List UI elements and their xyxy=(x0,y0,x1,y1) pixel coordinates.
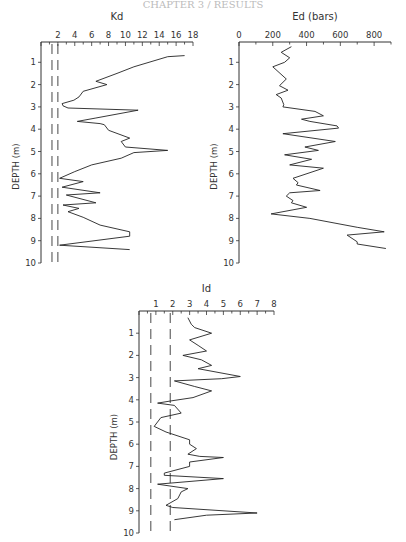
y-tick-label: 9 xyxy=(229,236,234,246)
kd-plot: Kd2468101214161812345678910DEPTH (m) xyxy=(11,11,198,268)
axis-title: Id xyxy=(202,283,211,294)
y-tick-label: 8 xyxy=(31,213,36,223)
x-tick-label: 6 xyxy=(89,30,94,40)
chart-canvas: CHAPTER 3 / RESULTS Kd246810121416181234… xyxy=(0,0,406,542)
y-tick-label: 4 xyxy=(31,124,36,134)
y-tick-label: 10 xyxy=(123,528,134,538)
y-tick-label: 5 xyxy=(129,417,134,427)
y-tick-label: 10 xyxy=(223,258,234,268)
x-tick-label: 8 xyxy=(271,299,276,309)
id-plot: Id1234567812345678910DEPTH (m) xyxy=(109,283,277,538)
y-tick-label: 6 xyxy=(31,169,36,179)
page-header: CHAPTER 3 / RESULTS xyxy=(143,0,264,10)
axis-title: Ed (bars) xyxy=(292,11,338,22)
x-tick-label: 4 xyxy=(204,299,209,309)
y-tick-label: 7 xyxy=(229,191,234,201)
x-tick-label: 8 xyxy=(106,30,111,40)
y-tick-label: 5 xyxy=(31,147,36,157)
y-axis-label: DEPTH (m) xyxy=(11,143,21,189)
ed-plot: Ed (bars)020040060080012345678910DEPTH (… xyxy=(209,11,391,268)
x-tick-label: 14 xyxy=(154,30,165,40)
x-tick-label: 16 xyxy=(171,30,182,40)
y-tick-label: 9 xyxy=(129,506,134,516)
y-tick-label: 4 xyxy=(229,124,234,134)
x-tick-label: 3 xyxy=(187,299,192,309)
y-axis-label: DEPTH (m) xyxy=(209,143,219,189)
x-tick-label: 1 xyxy=(153,299,158,309)
x-tick-label: 7 xyxy=(254,299,259,309)
x-tick-label: 600 xyxy=(332,30,348,40)
x-tick-label: 6 xyxy=(238,299,243,309)
y-tick-label: 2 xyxy=(129,350,134,360)
y-tick-label: 4 xyxy=(129,395,134,405)
x-tick-label: 5 xyxy=(221,299,226,309)
y-tick-label: 7 xyxy=(31,191,36,201)
x-tick-label: 400 xyxy=(298,30,314,40)
y-tick-label: 3 xyxy=(31,102,36,112)
y-tick-label: 6 xyxy=(129,439,134,449)
y-tick-label: 8 xyxy=(229,213,234,223)
y-tick-label: 2 xyxy=(229,80,234,90)
y-axis-label: DEPTH (m) xyxy=(109,414,119,460)
y-tick-label: 6 xyxy=(229,169,234,179)
y-tick-label: 3 xyxy=(229,102,234,112)
data-series-line xyxy=(154,318,257,520)
data-series-line xyxy=(271,47,386,249)
x-tick-label: 2 xyxy=(55,30,60,40)
y-tick-label: 10 xyxy=(25,258,36,268)
x-tick-label: 800 xyxy=(366,30,382,40)
x-tick-label: 10 xyxy=(120,30,131,40)
y-tick-label: 1 xyxy=(229,57,234,67)
axis-title: Kd xyxy=(111,11,124,22)
x-tick-label: 18 xyxy=(188,30,199,40)
y-tick-label: 7 xyxy=(129,461,134,471)
data-series-line xyxy=(60,56,185,250)
x-tick-label: 12 xyxy=(137,30,148,40)
y-tick-label: 1 xyxy=(129,328,134,338)
x-tick-label: 2 xyxy=(170,299,175,309)
x-tick-label: 4 xyxy=(72,30,77,40)
y-tick-label: 2 xyxy=(31,80,36,90)
y-tick-label: 8 xyxy=(129,484,134,494)
y-tick-label: 9 xyxy=(31,236,36,246)
y-tick-label: 1 xyxy=(31,57,36,67)
y-tick-label: 3 xyxy=(129,373,134,383)
x-tick-label: 0 xyxy=(236,30,241,40)
y-tick-label: 5 xyxy=(229,147,234,157)
x-tick-label: 200 xyxy=(265,30,281,40)
